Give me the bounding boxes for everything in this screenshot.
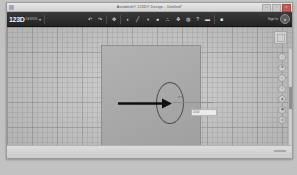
- pan-icon[interactable]: ✚: [278, 64, 286, 72]
- construct-icon[interactable]: ◑: [144, 15, 151, 23]
- pattern-icon[interactable]: ∴: [164, 15, 171, 23]
- dimension-input[interactable]: 10.00: [191, 109, 217, 116]
- title-bar: Autodesk® 123D® Design - Untitled* – □ ×: [7, 3, 292, 12]
- brand-name: 123D: [9, 15, 25, 24]
- toolbar-group-modeling: ◖ ╱ ◑ ● ∴ ❖ ◍ ? ▬: [124, 15, 211, 23]
- sketch-icon[interactable]: ╱: [134, 15, 141, 23]
- close-button[interactable]: ×: [282, 4, 291, 12]
- fit-icon[interactable]: ▣: [278, 106, 286, 114]
- material-icon[interactable]: ▬: [204, 15, 211, 23]
- toolbar-divider-4: [214, 15, 215, 24]
- scrollbar-thumb[interactable]: [289, 87, 292, 109]
- combine-icon[interactable]: ◍: [184, 15, 191, 23]
- window-title: Autodesk® 123D® Design - Untitled*: [7, 3, 292, 11]
- main-toolbar: 123D DESIGN ▾ ↶ ↷ ✥ ◖ ╱ ◑ ● ∴ ❖ ◍: [7, 12, 292, 27]
- extrude-arrow: [118, 98, 172, 109]
- chevron-down-icon[interactable]: ▾: [39, 17, 41, 22]
- toolbar-divider-2: [106, 15, 107, 24]
- model-canvas[interactable]: mm 10.00 ⌂ ✚ ⌕ ○ ◉ ▣ ⚙: [7, 27, 292, 159]
- toolbar-right: Sign In ●: [268, 14, 290, 24]
- dimension-label: mm: [178, 96, 183, 99]
- toolbar-group-transform: ✥: [110, 15, 117, 23]
- dimension-input-value: 10.00: [192, 110, 216, 115]
- avatar[interactable]: ●: [280, 14, 290, 24]
- look-at-icon[interactable]: ◉: [278, 95, 286, 103]
- zoom-icon[interactable]: ⌕: [278, 74, 286, 82]
- toolbar-group-snap: ■: [218, 15, 225, 23]
- brand-subtitle: DESIGN: [26, 15, 38, 23]
- maximize-button[interactable]: □: [272, 4, 281, 12]
- measure-icon[interactable]: ?: [194, 15, 201, 23]
- modify-icon[interactable]: ●: [154, 15, 161, 23]
- dimension-leader-line: [173, 102, 213, 103]
- toolbar-divider-3: [120, 15, 121, 24]
- settings-icon[interactable]: ⚙: [278, 116, 286, 124]
- brand-logo[interactable]: 123D DESIGN ▾: [9, 15, 41, 24]
- transform-icon[interactable]: ✥: [110, 15, 117, 23]
- status-indicator: [274, 150, 286, 152]
- primitives-icon[interactable]: ◖: [124, 15, 131, 23]
- navigation-bar: ⌂ ✚ ⌕ ○ ◉ ▣ ⚙: [278, 53, 286, 124]
- app-frame: Autodesk® 123D® Design - Untitled* – □ ×…: [6, 2, 293, 159]
- vertical-scrollbar[interactable]: [288, 49, 292, 159]
- redo-icon[interactable]: ↷: [96, 15, 103, 23]
- home-icon[interactable]: ⌂: [278, 53, 286, 61]
- sign-in-link[interactable]: Sign In: [268, 17, 278, 21]
- undo-icon[interactable]: ↶: [86, 15, 93, 23]
- orbit-icon[interactable]: ○: [278, 85, 286, 93]
- toolbar-group-history: ↶ ↷: [86, 15, 103, 23]
- application-window: Autodesk® 123D® Design - Untitled* – □ ×…: [0, 0, 297, 175]
- view-cube[interactable]: [274, 31, 287, 44]
- view-cube-inner-face[interactable]: [277, 34, 285, 42]
- window-controls: – □ ×: [262, 4, 291, 12]
- status-bar: [7, 145, 292, 158]
- grouping-icon[interactable]: ❖: [174, 15, 181, 23]
- toolbar-divider: [44, 15, 45, 24]
- snap-icon[interactable]: ■: [218, 15, 225, 23]
- minimize-button[interactable]: –: [262, 4, 271, 12]
